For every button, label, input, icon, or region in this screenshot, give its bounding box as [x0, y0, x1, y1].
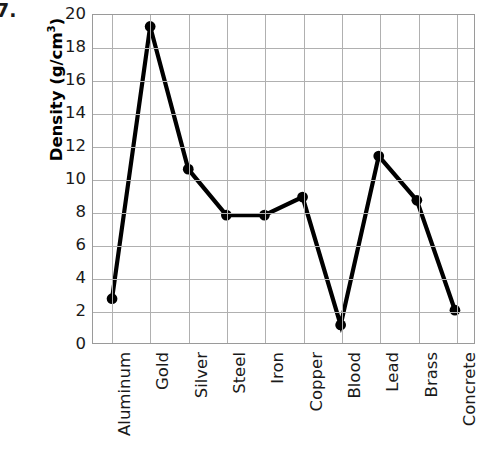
gridline-vertical [342, 15, 343, 343]
y-axis-tick-label: 14 [46, 105, 86, 122]
x-axis-tick-label: Brass [424, 352, 441, 397]
chart-page: 7. Density (g/cm3) 02468101214161820 Alu… [0, 0, 477, 469]
plot-area [92, 14, 475, 344]
x-axis-tick-label: Concrete [462, 352, 477, 426]
x-axis-tick-label: Steel [232, 352, 249, 394]
x-axis-tick-labels: AluminumGoldSilverSteelIronCopperBloodLe… [92, 344, 475, 469]
y-axis-tick-label: 16 [46, 72, 86, 89]
x-axis-tick-label: Copper [309, 352, 326, 412]
y-axis-tick-label: 10 [46, 171, 86, 188]
x-axis-tick-label: Silver [194, 352, 211, 398]
gridline-vertical [189, 15, 190, 343]
gridline-vertical [265, 15, 266, 343]
data-point-marker [411, 195, 422, 206]
data-point-marker [450, 305, 461, 316]
y-axis-tick-label: 20 [46, 6, 86, 23]
y-axis-tick-labels: 02468101214161820 [46, 0, 86, 360]
gridline-vertical [457, 15, 458, 343]
gridline-vertical [304, 15, 305, 343]
data-line [112, 26, 455, 324]
y-axis-tick-label: 18 [46, 39, 86, 56]
data-point-marker [373, 151, 384, 162]
y-axis-tick-label: 8 [46, 204, 86, 221]
x-axis-tick-label: Aluminum [117, 352, 134, 436]
data-point-marker [335, 320, 346, 331]
x-axis-tick-label: Lead [385, 352, 402, 392]
problem-number: 7. [0, 1, 16, 20]
y-axis-tick-label: 6 [46, 237, 86, 254]
y-axis-tick-label: 4 [46, 270, 86, 287]
gridline-vertical [380, 15, 381, 343]
y-axis-tick-label: 2 [46, 303, 86, 320]
y-axis-tick-label: 0 [46, 336, 86, 353]
gridline-vertical [419, 15, 420, 343]
y-axis-tick-label: 12 [46, 138, 86, 155]
data-point-marker [297, 192, 308, 203]
x-axis-tick-label: Iron [270, 352, 287, 384]
gridline-vertical [112, 15, 113, 343]
x-axis-tick-label: Blood [347, 352, 364, 399]
gridline-vertical [227, 15, 228, 343]
x-axis-tick-label: Gold [155, 352, 172, 390]
gridline-vertical [150, 15, 151, 343]
